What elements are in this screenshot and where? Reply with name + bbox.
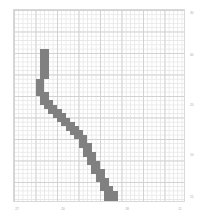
data-cell xyxy=(83,139,88,144)
major-gridlines xyxy=(14,10,184,201)
data-cell xyxy=(36,92,41,97)
data-cell xyxy=(44,49,49,54)
data-cell xyxy=(40,62,45,67)
data-cell xyxy=(36,79,41,84)
data-cell xyxy=(109,186,114,191)
data-cell xyxy=(79,130,84,135)
data-cell xyxy=(40,75,45,80)
minor-gridlines xyxy=(14,10,184,201)
data-cell xyxy=(100,169,105,174)
x-tick-label: 18 xyxy=(125,207,129,211)
data-cell xyxy=(113,199,118,202)
data-cell xyxy=(53,105,58,110)
data-cell xyxy=(36,83,41,88)
data-cell xyxy=(91,165,96,170)
data-cell xyxy=(74,130,79,135)
data-cell xyxy=(104,191,109,196)
data-cell xyxy=(48,109,53,114)
data-cell xyxy=(53,113,58,118)
plot-area xyxy=(13,9,185,202)
data-cell xyxy=(44,100,49,105)
data-cell xyxy=(83,143,88,148)
data-cell xyxy=(96,178,101,183)
data-cell xyxy=(48,105,53,110)
data-cell xyxy=(104,178,109,183)
data-cell xyxy=(44,92,49,97)
data-cell xyxy=(100,182,105,187)
y-tick-label: 15 xyxy=(190,195,194,199)
x-tick-label: 20 xyxy=(61,207,65,211)
data-cell xyxy=(61,122,66,127)
data-cell xyxy=(44,105,49,110)
data-cell xyxy=(40,53,45,58)
data-cell xyxy=(44,96,49,101)
data-cell xyxy=(40,79,45,84)
data-cell xyxy=(104,195,109,200)
y-tick-label: 30 xyxy=(190,11,194,15)
data-cell xyxy=(61,113,66,118)
data-cell xyxy=(48,100,53,105)
y-tick-label: 10 xyxy=(190,153,194,157)
data-cell xyxy=(61,118,66,123)
data-cell xyxy=(100,186,105,191)
data-cell xyxy=(44,70,49,75)
data-cell xyxy=(74,135,79,140)
data-cell xyxy=(79,139,84,144)
data-cell xyxy=(113,191,118,196)
data-cell xyxy=(109,199,114,202)
data-cell xyxy=(66,122,71,127)
data-cell xyxy=(36,87,41,92)
data-cell xyxy=(40,66,45,71)
data-cell xyxy=(87,152,92,157)
x-tick-label: 11 xyxy=(178,207,182,211)
data-cell xyxy=(74,126,79,131)
data-cell xyxy=(40,87,45,92)
data-cell xyxy=(100,173,105,178)
data-cell xyxy=(40,57,45,62)
data-cell xyxy=(53,109,58,114)
chart-figure: 27201811 3040201015 xyxy=(0,0,208,223)
data-cell xyxy=(44,57,49,62)
data-cell xyxy=(83,148,88,153)
data-cell xyxy=(91,169,96,174)
data-cell xyxy=(40,70,45,75)
data-cell xyxy=(100,178,105,183)
data-cell xyxy=(70,126,75,131)
data-cell-layer xyxy=(14,10,184,201)
data-cell xyxy=(87,161,92,166)
data-cell xyxy=(40,96,45,101)
data-cell xyxy=(87,148,92,153)
data-cell xyxy=(66,118,71,123)
data-cell xyxy=(109,195,114,200)
data-cell xyxy=(57,109,62,114)
data-cell xyxy=(40,83,45,88)
data-cell xyxy=(79,135,84,140)
data-cell xyxy=(57,113,62,118)
data-cell xyxy=(96,173,101,178)
data-cell xyxy=(79,143,84,148)
data-cell xyxy=(40,100,45,105)
x-tick-label: 27 xyxy=(15,207,19,211)
y-tick-label: 20 xyxy=(190,103,194,107)
data-cell xyxy=(70,122,75,127)
y-tick-label: 40 xyxy=(190,53,194,57)
data-cell xyxy=(83,135,88,140)
data-cell xyxy=(109,191,114,196)
data-cell xyxy=(109,199,114,202)
data-cell xyxy=(44,53,49,58)
data-cell xyxy=(91,156,96,161)
data-cell xyxy=(57,118,62,123)
data-cell xyxy=(96,161,101,166)
data-cell xyxy=(44,75,49,80)
data-cell xyxy=(91,152,96,157)
data-cell xyxy=(96,169,101,174)
data-cell xyxy=(40,49,45,54)
data-cell xyxy=(96,165,101,170)
data-cell xyxy=(40,92,45,97)
data-cell xyxy=(87,143,92,148)
data-cell xyxy=(44,62,49,67)
data-cell xyxy=(87,156,92,161)
data-cell xyxy=(104,186,109,191)
data-cell xyxy=(44,66,49,71)
data-cell xyxy=(113,195,118,200)
